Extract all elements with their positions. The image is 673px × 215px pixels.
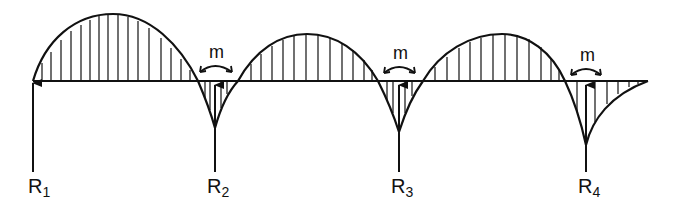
span-2-sagging-moment <box>238 34 378 81</box>
reaction-label-r2-sub: 2 <box>221 184 229 200</box>
moment-label-r3: m <box>393 44 408 62</box>
moment-label-r4: m <box>580 46 595 64</box>
reaction-label-r1-main: R <box>28 175 42 197</box>
reaction-label-r4-main: R <box>578 175 592 197</box>
moment-label-r2: m <box>209 43 224 61</box>
reaction-label-r1-sub: 1 <box>42 184 50 200</box>
span-3-sagging-moment <box>423 34 565 81</box>
moment-arc-r2 <box>200 66 232 72</box>
reaction-label-r2-main: R <box>207 175 221 197</box>
reaction-label-r4-sub: 4 <box>592 184 600 200</box>
reaction-label-r2: R2 <box>207 176 229 199</box>
reaction-label-r4: R4 <box>578 176 600 199</box>
hogging-cusp-r2 <box>198 81 238 128</box>
reaction-label-r1: R1 <box>28 176 50 199</box>
bending-moment-diagram <box>0 0 673 215</box>
reaction-label-r3-sub: 3 <box>405 184 413 200</box>
moment-arc-r4 <box>571 69 601 75</box>
span-1-sagging-moment <box>33 14 198 81</box>
moment-arc-r3 <box>384 67 415 73</box>
hogging-cusp-r3 <box>378 81 423 132</box>
reaction-label-r3-main: R <box>391 175 405 197</box>
reaction-label-r3: R3 <box>391 176 413 199</box>
hogging-cusp-r4-cantilever <box>565 81 648 145</box>
